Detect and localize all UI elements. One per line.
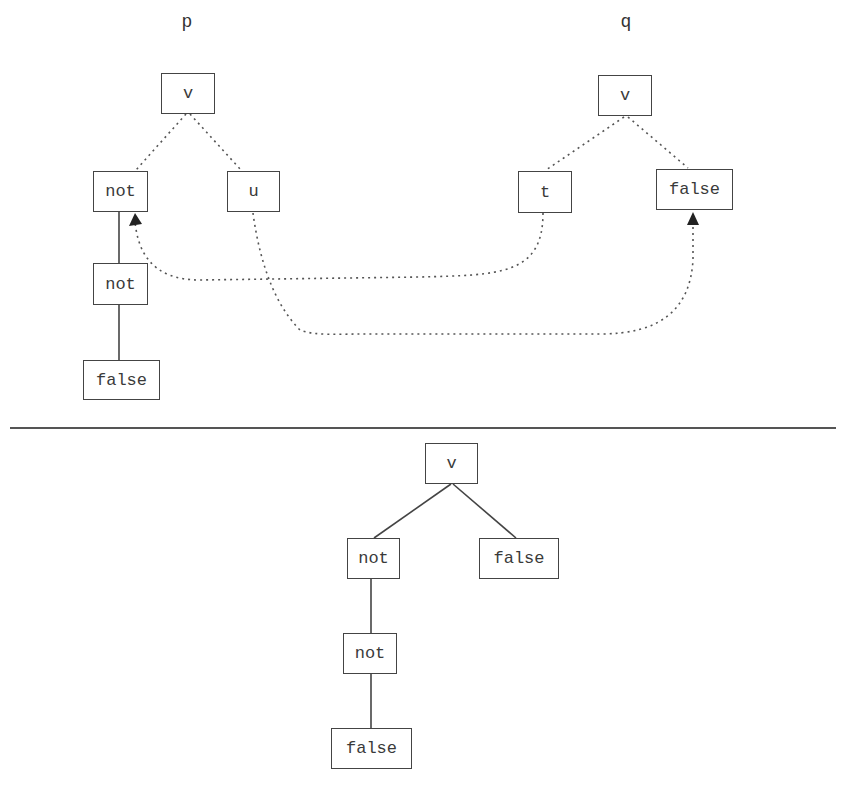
node-result-root-or: v bbox=[425, 443, 478, 484]
tree-label-p: p bbox=[182, 12, 193, 32]
node-q-false: false bbox=[656, 169, 733, 210]
edge-r-v-not bbox=[374, 484, 451, 538]
node-p-not-inner: not bbox=[93, 263, 148, 305]
node-q-root-or: v bbox=[598, 75, 652, 116]
arrow-to-false bbox=[687, 212, 699, 225]
node-result-false: false bbox=[479, 538, 559, 579]
link-u-to-false bbox=[253, 213, 693, 334]
node-result-false-leaf: false bbox=[331, 728, 412, 769]
node-q-t: t bbox=[518, 171, 572, 213]
arrow-to-not bbox=[129, 213, 142, 226]
edge-r-v-false bbox=[453, 484, 516, 538]
node-result-not-inner: not bbox=[343, 633, 397, 674]
node-result-not: not bbox=[347, 538, 400, 579]
edge-p-v-not bbox=[136, 114, 186, 170]
link-t-to-not bbox=[135, 213, 543, 280]
node-p-u: u bbox=[227, 171, 280, 212]
clipped-caption bbox=[20, 789, 620, 797]
node-p-false: false bbox=[83, 360, 160, 400]
tree-label-q: q bbox=[621, 12, 632, 32]
edge-q-v-false bbox=[628, 117, 688, 168]
edge-p-v-u bbox=[190, 114, 241, 170]
node-p-root-or: v bbox=[161, 73, 215, 114]
node-p-not: not bbox=[93, 171, 148, 212]
edge-q-v-t bbox=[546, 117, 624, 170]
